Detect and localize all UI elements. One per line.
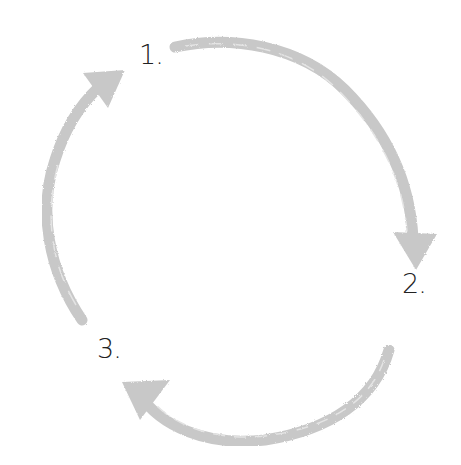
arrow-step3-to-step1 [47, 70, 125, 320]
step-3-label: 3. [97, 335, 121, 362]
step-2-label: 2. [402, 270, 426, 297]
cycle-diagram: 1. 2. 3. [0, 0, 461, 465]
cycle-arrows [0, 0, 461, 465]
step-1-label: 1. [139, 41, 163, 68]
arrow-step1-to-step2 [175, 42, 437, 270]
arrow-step2-to-step3 [122, 350, 389, 441]
